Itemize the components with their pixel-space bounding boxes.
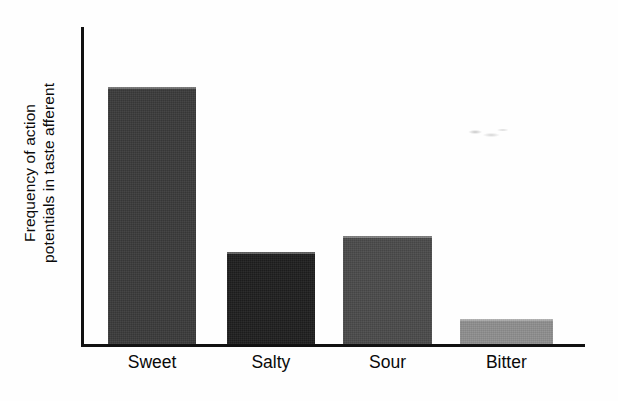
y-axis-label: Frequency of action potentials in taste …: [0, 0, 80, 345]
x-axis-line: [81, 344, 585, 347]
x-tick-label-sweet: Sweet: [108, 352, 196, 373]
plot-area: [84, 27, 585, 344]
y-axis-label-line-2: potentials in taste afferent: [40, 82, 59, 262]
bar-chart-figure: Frequency of action potentials in taste …: [0, 0, 618, 401]
bar-sour: [343, 236, 432, 344]
bar-sweet: [108, 87, 196, 344]
x-tick-label-sour: Sour: [343, 352, 432, 373]
y-axis-label-line-1: Frequency of action: [21, 82, 40, 262]
bar-salty: [227, 252, 315, 344]
x-axis-tick-labels: SweetSaltySourBitter: [84, 352, 585, 386]
x-tick-label-bitter: Bitter: [460, 352, 553, 373]
bar-bitter: [460, 319, 553, 344]
x-tick-label-salty: Salty: [227, 352, 315, 373]
y-axis-label-text: Frequency of action potentials in taste …: [21, 82, 59, 262]
